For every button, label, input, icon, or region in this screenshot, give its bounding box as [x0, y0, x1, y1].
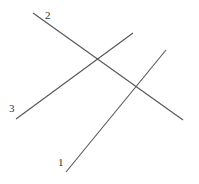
line-2-label: 2: [45, 9, 51, 21]
line-2: [33, 13, 183, 120]
line-1-label: 1: [58, 156, 64, 168]
line-3-group: 3: [9, 33, 133, 119]
line-1: [66, 50, 166, 172]
line-1-group: 1: [58, 50, 166, 172]
line-3: [16, 33, 133, 119]
line-diagram: 1 2 3: [0, 0, 199, 184]
line-3-label: 3: [9, 102, 15, 114]
line-2-group: 2: [33, 9, 183, 120]
